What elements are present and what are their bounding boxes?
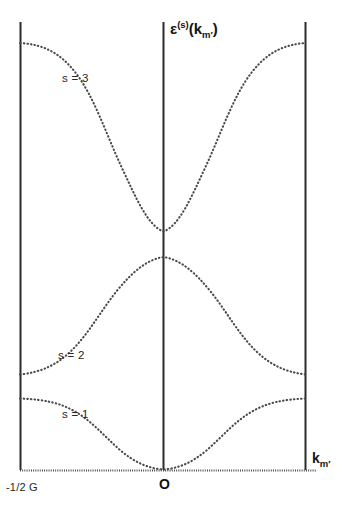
origin-tick-label: O	[159, 477, 170, 491]
x-axis-k-symbol: k	[312, 450, 320, 466]
x-axis-label: km′	[312, 451, 331, 468]
y-axis-k-symbol: k	[194, 20, 202, 37]
y-axis-subscript: m	[202, 29, 210, 40]
band-label-s3: s = 3	[62, 73, 89, 85]
x-axis-prime: ′	[328, 458, 330, 469]
y-axis-superscript: (s)	[177, 19, 189, 30]
band-structure-figure: ε(s)(km′) km′ O -1/2 G s = 3 s = 2 s = 1	[0, 0, 350, 511]
y-axis-close-paren: )	[213, 20, 218, 37]
band-label-s1: s = 1	[62, 409, 89, 421]
y-axis-label: ε(s)(km′)	[170, 20, 218, 40]
band-label-s2: s = 2	[58, 350, 85, 362]
x-axis-subscript: m	[320, 458, 328, 469]
plot-area	[0, 0, 350, 511]
left-boundary-tick-label: -1/2 G	[6, 482, 38, 493]
